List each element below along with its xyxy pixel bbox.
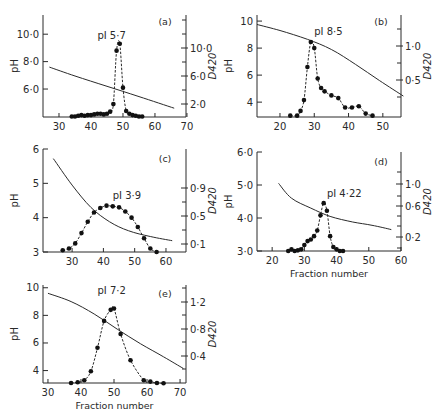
absorbance-point [112, 306, 117, 311]
pi-annotation: pI 5·7 [97, 30, 125, 41]
y-axis-label: pH [9, 194, 20, 208]
y-tick-label: 10 [240, 16, 253, 27]
absorbance-point [117, 41, 122, 46]
panel-c: 3040506034560·10·50·9pHD420pI 3·9(c) [9, 144, 218, 268]
y-axis-label: pH [223, 59, 234, 73]
x-tick-label: 40 [85, 121, 98, 132]
absorbance-point [75, 380, 80, 385]
y-tick-label: 4 [33, 365, 39, 376]
absorbance-point [118, 332, 123, 337]
absorbance-point [357, 104, 362, 109]
y-tick-label: 6·0 [23, 84, 39, 95]
y-tick-label: 5 [33, 178, 39, 189]
x-tick-label: 50 [128, 256, 141, 267]
x-tick-label: 50 [376, 121, 389, 132]
y-right-tick-label: 1·0 [405, 179, 421, 190]
y-right-tick-label: 0·4 [190, 351, 206, 362]
absorbance-point [148, 379, 153, 384]
x-axis-label: Fraction number [75, 400, 153, 411]
absorbance-point [318, 213, 323, 218]
absorbance-point [319, 86, 324, 91]
absorbance-point [89, 369, 94, 374]
y-right-tick-label: 1·0 [405, 41, 421, 52]
pi-annotation: pI 8·5 [314, 26, 342, 37]
y-right-tick-label: 10·0 [190, 43, 212, 54]
absorbance-point [85, 219, 90, 224]
absorbance-point [155, 381, 160, 386]
absorbance-point [336, 96, 341, 101]
panel-e: 3040506070468100·40·81·2pHD420Fraction n… [9, 282, 218, 411]
y-axis-label: pH [9, 327, 20, 341]
absorbance-point [154, 250, 159, 255]
pi-annotation: pI 7·2 [97, 285, 125, 296]
panel-b: 20304050468100·51·0pHD420pI 8·5(b) [223, 15, 433, 132]
y-axis-label: pH [223, 195, 234, 209]
x-tick-label: 50 [362, 255, 375, 266]
absorbance-point [123, 209, 128, 214]
y-right-axis-label: D420 [422, 188, 433, 215]
absorbance-point [98, 206, 103, 211]
y-tick-label: 8·0 [23, 56, 39, 67]
absorbance-point [343, 105, 348, 110]
panel-label: (d) [374, 156, 387, 167]
pi-annotation: pI 4·22 [327, 188, 362, 199]
absorbance-point [298, 109, 303, 114]
y-tick-label: 3·0 [237, 246, 253, 257]
y-right-tick-label: 1·2 [190, 297, 206, 308]
y-tick-label: 8 [247, 43, 253, 54]
x-tick-label: 40 [75, 387, 88, 398]
absorbance-point [329, 93, 334, 98]
absorbance-point [128, 358, 133, 363]
absorbance-point [325, 208, 330, 213]
y-right-tick-label: 0·9 [190, 183, 206, 194]
y-tick-label: 3 [33, 247, 39, 258]
absorbance-point [322, 89, 327, 94]
absorbance-point [95, 346, 100, 351]
y-tick-label: 4 [33, 212, 39, 223]
absorbance-point [350, 105, 355, 110]
y-tick-label: 10·0 [17, 29, 39, 40]
y-tick-label: 6 [33, 337, 39, 348]
y-right-axis-label: D420 [207, 187, 218, 214]
absorbance-point [328, 234, 333, 239]
absorbance-point [140, 114, 145, 119]
x-tick-label: 50 [108, 387, 121, 398]
x-tick-label: 50 [117, 121, 130, 132]
absorbance-point [79, 231, 84, 236]
y-right-tick-label: 6·0 [190, 71, 206, 82]
y-right-tick-label: 0·5 [190, 211, 206, 222]
absorbance-point [121, 85, 126, 90]
absorbance-point [288, 113, 293, 118]
x-tick-label: 30 [42, 387, 55, 398]
absorbance-point [110, 204, 115, 209]
x-tick-label: 60 [149, 121, 162, 132]
absorbance-point [92, 210, 97, 215]
y-right-axis-label: D420 [207, 321, 218, 348]
absorbance-point [148, 246, 153, 251]
absorbance-point [308, 237, 313, 242]
y-right-axis-label: D420 [422, 53, 433, 80]
y-tick-label: 4 [247, 97, 253, 108]
x-tick-label: 30 [53, 121, 66, 132]
pi-annotation: pI 3·9 [113, 190, 141, 201]
panel-label: (a) [158, 16, 171, 27]
absorbance-point [305, 65, 310, 70]
absorbance-point [114, 48, 119, 53]
panel-a: 30405060706·08·010·02·06·010·0pHD420pI 5… [9, 15, 218, 132]
absorbance-point [82, 378, 87, 383]
figure: 30405060706·08·010·02·06·010·0pHD420pI 5… [0, 0, 444, 419]
absorbance-point [108, 109, 113, 114]
y-right-tick-label: 0·8 [190, 324, 206, 335]
absorbance-point [129, 215, 134, 220]
absorbance-point [341, 249, 346, 254]
y-right-tick-label: 0·5 [405, 75, 421, 86]
y-tick-label: 6 [33, 144, 39, 155]
absorbance-point [67, 246, 72, 251]
absorbance-point [142, 236, 147, 241]
y-right-tick-label: 0·2 [405, 232, 421, 243]
absorbance-point [295, 113, 300, 118]
ph-gradient-line [48, 293, 183, 368]
x-tick-label: 60 [141, 387, 154, 398]
absorbance-point [117, 205, 122, 210]
absorbance-point [321, 201, 326, 206]
